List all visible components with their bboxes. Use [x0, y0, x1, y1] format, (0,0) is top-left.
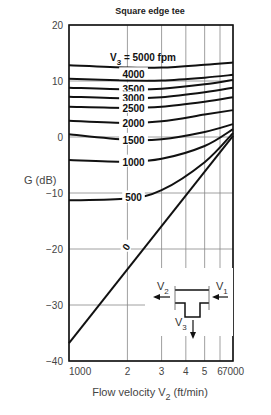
curve-label: 500	[125, 192, 142, 203]
y-tick-label: −30	[46, 300, 63, 311]
y-axis-ticks: 20100−10−20−30−40	[46, 20, 63, 367]
x-tick-label: 1000	[69, 366, 92, 377]
x-axis-label: Flow velocity V2 (ft/min)	[92, 386, 208, 402]
y-tick-label: 10	[52, 76, 64, 87]
tee-noise-chart: Square edge tee 400035003000250020001500…	[0, 0, 271, 415]
y-tick-label: −40	[46, 356, 63, 367]
x-axis-ticks: 1000234567000	[69, 366, 245, 377]
curve-label: 2500	[122, 103, 145, 114]
legend-title: V3 = 5000 fpm	[110, 52, 176, 67]
x-tick-label: 5	[202, 366, 208, 377]
curve-label: 4000	[122, 69, 145, 80]
y-axis-label: G (dB)	[24, 174, 56, 186]
x-tick-label: 2	[125, 366, 131, 377]
curve-labels: 40003500300025002000150010005000	[119, 67, 148, 252]
y-tick-label: −20	[46, 244, 63, 255]
y-tick-label: −10	[46, 188, 63, 199]
curve-label: 2000	[122, 118, 145, 129]
x-tick-label: 4	[183, 366, 189, 377]
y-tick-label: 20	[52, 20, 64, 31]
x-tick-label: 7000	[222, 366, 245, 377]
x-tick-label: 3	[159, 366, 165, 377]
curve-v3-2000	[69, 110, 233, 123]
curve-v3-1500	[69, 124, 233, 140]
curve-v3-5000	[69, 63, 233, 68]
curve-label: 1500	[122, 135, 145, 146]
curve-v3-4000	[69, 75, 233, 81]
chart-title: Square edge tee	[115, 6, 185, 16]
curve-label: 1000	[122, 157, 145, 168]
y-tick-label: 0	[57, 132, 63, 143]
curve-v3-1000	[69, 129, 233, 161]
tee-inset-diagram: V2 V1 V3	[145, 268, 233, 339]
